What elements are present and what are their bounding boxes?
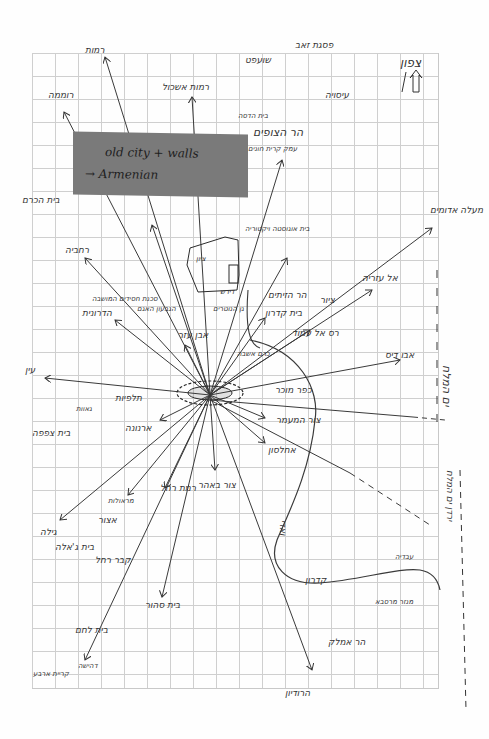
label-beit-tzafafa: בית צפפה xyxy=(32,428,70,438)
label-beit-kedron: בית קדרון xyxy=(265,308,302,318)
sticky-note-line2: → Armenian xyxy=(85,167,158,182)
label-beit-hakerem: בית הכרם xyxy=(22,195,60,205)
label-har-amal: הר אמלק xyxy=(328,637,365,647)
label-rehavia: רחביה xyxy=(65,245,89,255)
label-isawiya: עיסויה xyxy=(325,90,349,100)
label-hamiktzav: הגבעון האגם xyxy=(137,305,176,313)
label-beit-hadassah: בית הדסה xyxy=(238,112,268,120)
label-hadar: הדרונית xyxy=(82,308,112,318)
label-ramot: רמות xyxy=(85,45,105,55)
label-el-azaria: אל עזריה xyxy=(362,273,398,283)
compass-label: צפון xyxy=(400,56,421,70)
label-sur-bahir: צור באהר xyxy=(198,480,236,490)
label-kotel: כרם אשבה xyxy=(237,350,270,358)
label-abu-dis: אבו דיס xyxy=(385,350,414,360)
paper-sheet: old city + walls → Armenian צפון פסגת זא… xyxy=(0,0,489,739)
label-dahisha: דהישה xyxy=(78,662,98,670)
label-wadi: ואדי xyxy=(278,520,288,535)
label-kever-rachel: קבר רחל xyxy=(95,555,131,565)
label-herodion: הרודיון xyxy=(285,688,310,698)
label-ras-al-amud: רס אל עמוד xyxy=(292,328,339,338)
label-hatzofim-sub: עמק קרית חונים xyxy=(248,145,297,153)
label-dead-sea-right: ים המלח xyxy=(440,365,453,406)
label-har-hazeitim: הר הזיתים xyxy=(268,290,307,300)
label-gan-nemol: גן הנוטרים xyxy=(213,305,244,313)
label-even-ezer: אבן עזר xyxy=(178,330,208,340)
label-beit-lechem: בית לחם xyxy=(75,625,108,635)
label-sur: ציור xyxy=(320,295,335,305)
label-kidron: קדרון xyxy=(305,575,326,585)
label-ein: עין xyxy=(25,365,35,375)
label-har-hatzofim: הר הצופים xyxy=(253,126,303,139)
label-mar-saba: מנזר מרסבא xyxy=(375,598,413,606)
label-atzur: אצור xyxy=(98,515,117,525)
label-pisgat-zeev: פסגת זאב xyxy=(295,40,333,50)
label-kfar-mosar: כפר מוכר xyxy=(275,385,312,395)
label-moshava: סכנת חסידים המושבה xyxy=(92,295,158,303)
label-tzur-haomer: צור המעמר xyxy=(276,415,321,425)
label-marallot: מראולות xyxy=(108,497,134,505)
label-maale-adumim: מעלה אדומים xyxy=(430,205,483,215)
label-talpiot: תלפיות xyxy=(115,393,142,403)
label-valley: גאוות xyxy=(76,405,92,413)
sketch-lines xyxy=(0,0,489,739)
label-ramat-rachel: רמת רחל xyxy=(160,483,196,493)
label-gila: גילה xyxy=(40,527,57,537)
label-shuafat: שועפט xyxy=(245,55,271,65)
label-jordan-dead-sea: ירדן ים המלח xyxy=(445,470,455,521)
label-beit-augusta: בית אוגוסטה ויקטוריה xyxy=(245,225,310,233)
label-beit-sahur: בית סהור xyxy=(145,600,180,610)
label-ubeidiya: עבדיה xyxy=(395,553,413,561)
north-arrow-icon xyxy=(410,70,422,92)
label-ramot-eshkol: רמות אשכול xyxy=(162,82,209,92)
label-romema: רוממה xyxy=(48,90,74,100)
sticky-note-line1: old city + walls xyxy=(105,145,199,161)
label-dirshon: דירש xyxy=(220,288,234,296)
label-beit-jala: בית ג'אלה xyxy=(55,542,94,552)
label-kiryat-arba: קריית ארבע xyxy=(33,670,69,678)
label-tziyon: ציון xyxy=(196,255,206,263)
sticky-note: old city + walls → Armenian xyxy=(73,131,248,197)
label-arnona: ארנונה xyxy=(125,423,152,433)
label-akhlaton: אחלסון xyxy=(268,445,296,455)
